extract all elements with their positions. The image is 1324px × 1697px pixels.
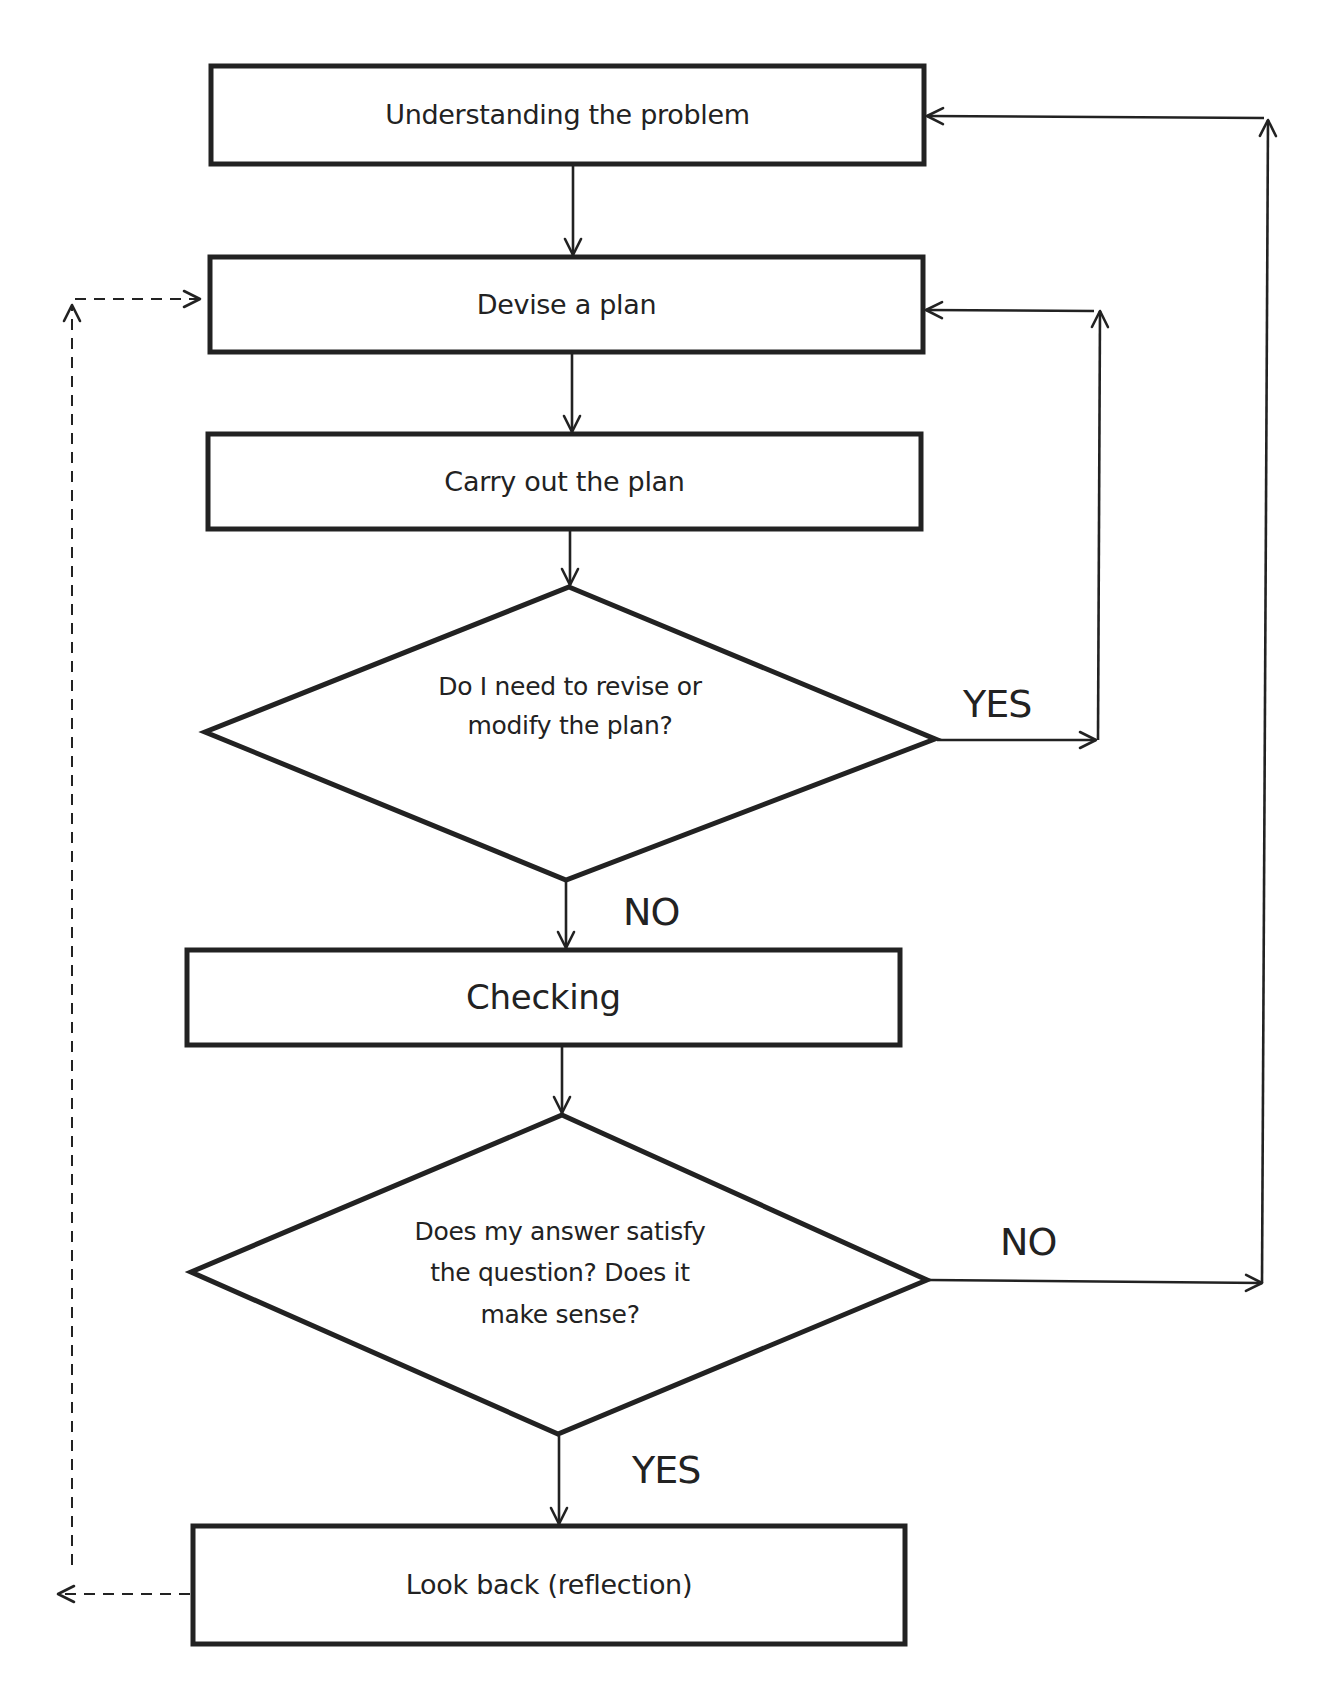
node-devise-label: Devise a plan xyxy=(210,257,923,352)
satisfy-decision-line-2: the question? Does it xyxy=(430,1252,690,1293)
revise-decision-line-2: modify the plan? xyxy=(468,707,673,746)
edge-label-revise-yes: YES xyxy=(963,682,1031,726)
edge-revise-yes-up xyxy=(1098,311,1100,740)
node-revise-decision-label: Do I need to revise or modify the plan? xyxy=(370,665,770,749)
edge-label-satisfy-yes: YES xyxy=(632,1448,700,1492)
edge-satisfy-no-right xyxy=(929,1280,1262,1283)
node-look-back-label: Look back (reflection) xyxy=(193,1526,905,1644)
edge-label-satisfy-no: NO xyxy=(1000,1220,1056,1264)
edge-label-revise-no: NO xyxy=(623,890,679,934)
node-satisfy-decision-label: Does my answer satisfy the question? Doe… xyxy=(360,1208,760,1338)
node-carry-out-label: Carry out the plan xyxy=(208,434,921,529)
edge-revise-yes-to-devise xyxy=(926,310,1094,311)
edge-satisfy-no-to-understand xyxy=(927,116,1264,118)
node-checking-label: Checking xyxy=(187,950,900,1045)
revise-decision-line-1: Do I need to revise or xyxy=(438,668,701,707)
flowchart-canvas xyxy=(0,0,1324,1697)
satisfy-decision-line-3: make sense? xyxy=(480,1294,639,1335)
edge-satisfy-no-up xyxy=(1262,120,1268,1283)
node-understand-label: Understanding the problem xyxy=(211,66,924,164)
satisfy-decision-line-1: Does my answer satisfy xyxy=(415,1211,706,1252)
